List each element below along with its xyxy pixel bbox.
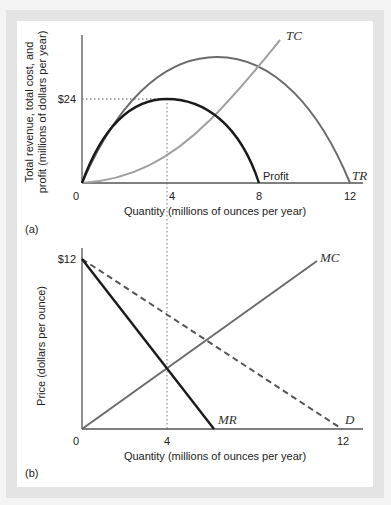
xlabel-a: Quantity (millions of ounces per year) <box>124 205 306 217</box>
tr-curve <box>82 57 350 183</box>
label-tr: TR <box>352 168 367 183</box>
panel-label-b: (b) <box>25 467 38 479</box>
panel-label-a: (a) <box>25 223 38 235</box>
label-tc: TC <box>286 28 302 43</box>
profit-curve <box>82 99 259 183</box>
ylabel-a-line1: Total revenue, total cost, and <box>23 42 35 183</box>
label-mc: MC <box>319 250 340 265</box>
xtick-0-b: 0 <box>73 435 79 447</box>
chart-a: $24 0 4 8 12 TC TR Profit Quantity (mill… <box>23 28 367 430</box>
ytick-12: $12 <box>58 253 76 265</box>
chart-b: $12 0 4 12 MC MR D Quantity (millions of… <box>25 248 363 479</box>
ytick-24: $24 <box>58 93 76 105</box>
xtick-4-b: 4 <box>164 435 170 447</box>
mc-line <box>82 261 317 429</box>
ylabel-b: Price (dollars per ounce) <box>35 286 47 406</box>
mr-line <box>82 259 214 429</box>
figure-svg: $24 0 4 8 12 TC TR Profit Quantity (mill… <box>0 0 391 505</box>
xlabel-b: Quantity (millions of ounces per year) <box>124 450 306 462</box>
xtick-0-a: 0 <box>73 190 79 202</box>
demand-line <box>82 259 342 429</box>
label-d: D <box>344 412 355 427</box>
label-profit: Profit <box>263 170 289 182</box>
xtick-8-a: 8 <box>256 190 262 202</box>
xtick-12-a: 12 <box>344 190 356 202</box>
xtick-4-a: 4 <box>169 190 175 202</box>
label-mr: MR <box>217 412 237 427</box>
xtick-12-b: 12 <box>337 435 349 447</box>
ylabel-a-line2: profit (millions of dollars per year) <box>36 31 48 194</box>
